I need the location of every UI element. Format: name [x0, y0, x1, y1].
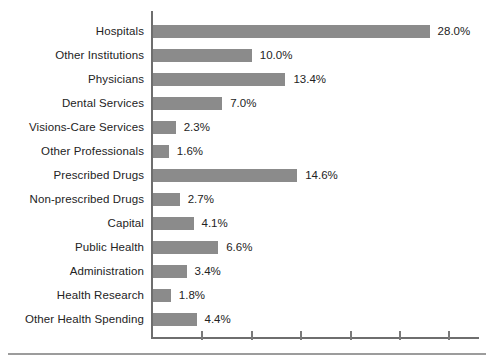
x-axis-tick: [251, 331, 253, 340]
value-label: 14.6%: [305, 169, 338, 181]
chart-row: Prescribed Drugs14.6%: [0, 163, 491, 187]
value-label: 4.4%: [205, 313, 231, 325]
chart-row: Visions-Care Services2.3%: [0, 115, 491, 139]
bar: [153, 265, 187, 278]
x-axis-tick: [201, 331, 203, 340]
value-label: 6.6%: [226, 241, 252, 253]
bar: [153, 241, 218, 254]
bottom-separator-rule: [8, 353, 486, 355]
chart-row: Physicians13.4%: [0, 67, 491, 91]
bar: [153, 193, 180, 206]
bar: [153, 313, 197, 326]
category-label: Physicians: [0, 73, 153, 85]
x-axis-line: [151, 337, 479, 339]
x-axis-tick: [350, 331, 352, 340]
bar: [153, 97, 222, 110]
category-label: Health Research: [0, 289, 153, 301]
category-label: Capital: [0, 217, 153, 229]
bar: [153, 121, 176, 134]
value-label: 1.8%: [179, 289, 205, 301]
category-label: Other Professionals: [0, 145, 153, 157]
chart-area: Hospitals28.0%Other Institutions10.0%Phy…: [0, 11, 491, 339]
chart-row: Non-prescribed Drugs2.7%: [0, 187, 491, 211]
category-label: Non-prescribed Drugs: [0, 193, 153, 205]
chart-row: Other Institutions10.0%: [0, 43, 491, 67]
x-axis-tick: [300, 331, 302, 340]
bar-rows: Hospitals28.0%Other Institutions10.0%Phy…: [0, 19, 491, 331]
bar: [153, 289, 171, 302]
category-label: Other Health Spending: [0, 313, 153, 325]
chart-row: Administration3.4%: [0, 259, 491, 283]
category-label: Hospitals: [0, 25, 153, 37]
chart-row: Capital4.1%: [0, 211, 491, 235]
chart-row: Other Professionals1.6%: [0, 139, 491, 163]
bar: [153, 25, 430, 38]
x-axis-tick: [448, 331, 450, 340]
chart-row: Dental Services7.0%: [0, 91, 491, 115]
category-label: Prescribed Drugs: [0, 169, 153, 181]
bar: [153, 49, 252, 62]
value-label: 7.0%: [230, 97, 256, 109]
category-label: Visions-Care Services: [0, 121, 153, 133]
category-label: Public Health: [0, 241, 153, 253]
category-label: Dental Services: [0, 97, 153, 109]
value-label: 10.0%: [260, 49, 293, 61]
chart-row: Health Research1.8%: [0, 283, 491, 307]
x-axis-tick: [399, 331, 401, 340]
value-label: 2.7%: [188, 193, 214, 205]
bar: [153, 217, 194, 230]
value-label: 2.3%: [184, 121, 210, 133]
category-label: Administration: [0, 265, 153, 277]
category-label: Other Institutions: [0, 49, 153, 61]
value-label: 13.4%: [293, 73, 326, 85]
y-axis-line: [151, 11, 153, 339]
value-label: 3.4%: [195, 265, 221, 277]
chart-row: Other Health Spending4.4%: [0, 307, 491, 331]
value-label: 4.1%: [202, 217, 228, 229]
bar: [153, 169, 297, 182]
chart-row: Hospitals28.0%: [0, 19, 491, 43]
value-label: 28.0%: [438, 25, 471, 37]
value-label: 1.6%: [177, 145, 203, 157]
bar: [153, 73, 285, 86]
bar: [153, 145, 169, 158]
bar-chart-figure: Hospitals28.0%Other Institutions10.0%Phy…: [0, 0, 491, 363]
chart-row: Public Health6.6%: [0, 235, 491, 259]
